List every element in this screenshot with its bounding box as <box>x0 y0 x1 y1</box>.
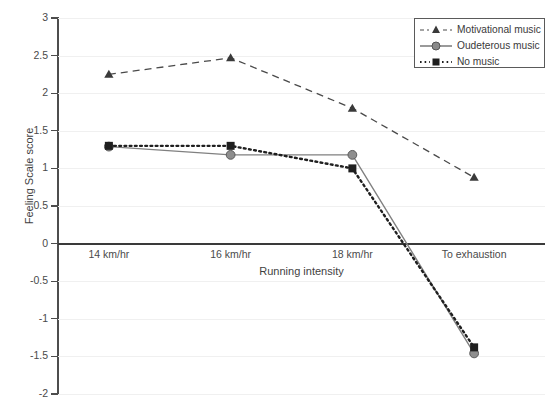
data-point-marker <box>470 343 478 351</box>
data-point-marker <box>226 150 235 159</box>
legend-label: Oudeterous music <box>453 40 540 51</box>
chart-figure: 32.521.510.50-0.5-1-1.5-2 14 km/hr16 km/… <box>0 0 560 409</box>
data-point-marker <box>348 164 356 172</box>
legend-item-no-music[interactable]: No music <box>419 54 540 69</box>
legend-label: No music <box>453 56 499 67</box>
data-point-marker <box>348 104 357 112</box>
series-oudeterous-music <box>104 142 478 358</box>
data-point-marker <box>470 173 479 181</box>
data-point-marker <box>105 142 113 150</box>
data-point-marker <box>226 53 235 61</box>
series-motivational-music <box>104 53 478 181</box>
series-line <box>109 147 474 354</box>
legend-key-circle-solid-icon <box>419 39 453 53</box>
series-line <box>109 58 474 178</box>
series-no-music <box>105 142 478 352</box>
data-point-marker <box>227 142 235 150</box>
data-point-marker <box>348 150 357 159</box>
legend-item-motivational-music[interactable]: Motivational music <box>419 22 540 37</box>
legend-label: Motivational music <box>453 24 541 35</box>
legend-key-square-dotted-icon <box>419 55 453 69</box>
series-line <box>109 146 474 348</box>
legend-item-oudeterous-music[interactable]: Oudeterous music <box>419 38 540 53</box>
legend-key-triangle-dashed-icon <box>419 23 453 37</box>
chart-legend: Motivational music Oudeterous music No m… <box>414 18 545 68</box>
